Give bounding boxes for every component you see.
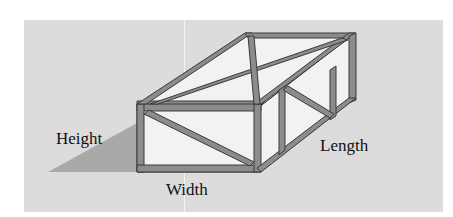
front-top-beam-inner <box>137 104 261 111</box>
frame-box-diagram <box>0 0 453 217</box>
width-label: Width <box>166 180 208 200</box>
front-right-post <box>254 104 261 172</box>
top-back-rail <box>245 33 355 38</box>
side-back-post <box>349 33 356 103</box>
front-left-post <box>137 104 144 172</box>
front-bottom-beam <box>137 165 261 172</box>
height-label: Height <box>56 129 102 149</box>
length-label: Length <box>320 136 368 156</box>
side-mid-post <box>279 86 285 155</box>
